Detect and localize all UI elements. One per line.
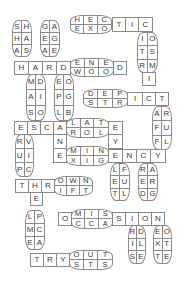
letter-cell: E <box>53 148 67 163</box>
letter-cell: S <box>112 212 126 226</box>
letter-cell: C <box>142 92 156 106</box>
choice-tile-out-sts[interactable]: O U T S T S <box>69 250 113 270</box>
letter-cell: C <box>40 121 54 135</box>
letter: E <box>137 251 145 263</box>
choice-tile-lat-rol[interactable]: L A T R O L <box>66 118 109 138</box>
letter: L <box>67 119 81 128</box>
letter: I <box>36 90 45 105</box>
letter: T <box>111 189 120 200</box>
letter: I <box>55 186 67 195</box>
letter-cell: E <box>14 121 28 135</box>
letter-cell: I <box>125 212 139 226</box>
letter: O <box>81 128 95 137</box>
choice-tile-own-ift[interactable]: O W N I F T <box>54 176 93 196</box>
letter: O <box>36 106 45 120</box>
letter-cell: C <box>138 17 153 32</box>
letter: E <box>41 33 50 45</box>
letter: S <box>148 46 158 59</box>
choice-column-red[interactable]: R A E R D G <box>138 163 158 201</box>
letter: U <box>120 176 129 188</box>
letter: M <box>67 147 81 156</box>
letter: R <box>138 60 148 72</box>
letter-cell: N <box>53 134 67 149</box>
letter: O <box>98 25 111 34</box>
letter: X <box>67 156 81 165</box>
letter-cell: I <box>142 72 156 86</box>
letter: O <box>148 33 158 46</box>
letter-cell: T <box>155 92 169 106</box>
letter: T <box>84 260 98 269</box>
letter: R <box>129 226 137 239</box>
letter-cell: Y <box>108 134 123 149</box>
word-puzzle-board: H E C E X O T I C S H H A A S G A E G A … <box>0 0 186 293</box>
letter: U <box>16 149 25 163</box>
choice-column-gae[interactable]: G A E G A E <box>40 20 60 57</box>
letter: D <box>139 189 148 200</box>
choice-column-ris[interactable]: R D I L S E <box>128 225 146 264</box>
letter: F <box>120 164 129 176</box>
choice-column-aff[interactable]: A R F U F L <box>152 106 172 150</box>
choice-tile-mis-cca[interactable]: M I S C C A <box>71 209 113 229</box>
choice-tile-hec-exo[interactable]: H E C E X O <box>70 15 112 34</box>
letter: G <box>148 189 157 200</box>
letter-cell: T <box>15 179 29 193</box>
letter: A <box>13 45 22 56</box>
letter: E <box>55 75 64 90</box>
letter: P <box>16 163 25 176</box>
letter: O <box>85 68 99 77</box>
choice-column-mas[interactable]: M D A I S O <box>26 74 46 121</box>
letter-cell: E <box>108 121 123 135</box>
choice-column-epl[interactable]: E O P G L B <box>54 74 74 121</box>
letter: H <box>13 33 22 45</box>
choice-column-ext[interactable]: E O X T T E <box>153 225 172 264</box>
letter-cell: H <box>14 61 29 75</box>
letter: L <box>137 239 145 252</box>
letter: A <box>50 21 59 33</box>
letter-cell: N <box>151 212 165 226</box>
letter: T <box>94 119 108 128</box>
letter-cell: O <box>58 212 72 226</box>
letter-cell: R <box>43 253 57 267</box>
choice-column-lme[interactable]: L P M C E A <box>25 210 45 250</box>
letter: E <box>26 237 35 249</box>
letter-cell: D <box>56 61 71 75</box>
letter: F <box>153 136 162 149</box>
letter: T <box>98 99 112 108</box>
letter: S <box>129 251 137 263</box>
choice-column-itr[interactable]: I O T S R M <box>137 32 158 73</box>
letter-cell: E <box>108 149 123 163</box>
choice-column-let[interactable]: L F E U T L <box>110 163 130 201</box>
letter: E <box>154 226 163 239</box>
letter: C <box>85 219 98 228</box>
choice-tile-dep-str[interactable]: D E P S T R <box>83 89 128 108</box>
letter: G <box>50 33 59 45</box>
choice-column-rup[interactable]: R V U I P C <box>15 134 34 177</box>
choice-tile-ene-woo[interactable]: E N E W O O <box>70 58 114 77</box>
letter: R <box>139 164 148 176</box>
letter: L <box>120 189 129 200</box>
letter: R <box>113 99 127 108</box>
letter: E <box>111 176 120 188</box>
letter: A <box>41 45 50 56</box>
letter-cell: T <box>30 253 44 267</box>
letter: A <box>148 164 157 176</box>
letter: I <box>81 147 95 156</box>
letter: H <box>22 21 31 33</box>
choice-column-sha[interactable]: S H H A A S <box>12 20 32 57</box>
letter-cell: D <box>113 61 127 75</box>
letter: I <box>81 156 95 165</box>
letter: X <box>154 239 163 252</box>
letter: F <box>67 186 79 195</box>
letter-cell: E <box>30 192 43 206</box>
letter: U <box>162 121 171 135</box>
letter: P <box>55 90 64 105</box>
letter: S <box>27 106 36 120</box>
letter: N <box>94 147 108 156</box>
letter: T <box>154 251 163 263</box>
letter-cell: A <box>28 61 43 75</box>
letter: C <box>25 163 34 176</box>
letter: I <box>85 210 98 219</box>
choice-tile-min-xig[interactable]: M I N X I G <box>66 146 109 166</box>
letter: L <box>94 128 108 137</box>
letter: A <box>81 119 95 128</box>
